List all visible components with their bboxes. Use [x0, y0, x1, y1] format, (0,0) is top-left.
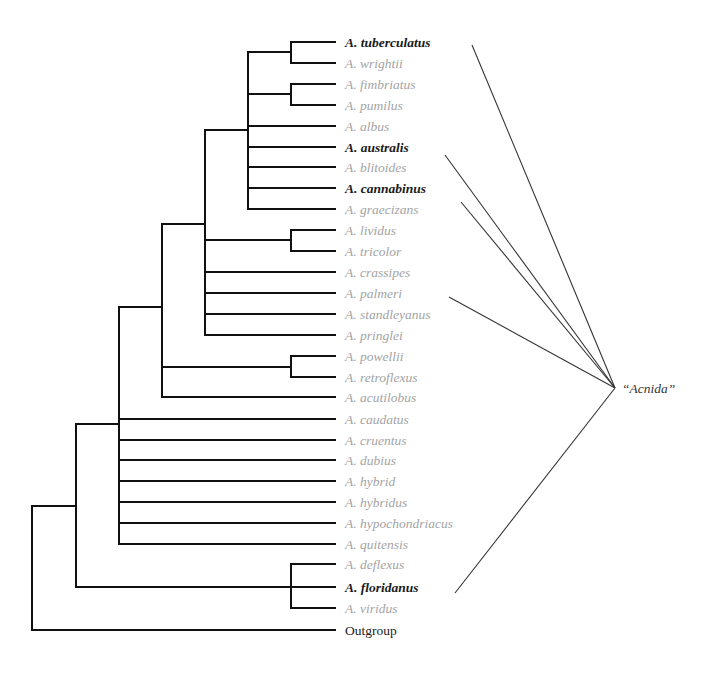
taxon-label: A. hybrid [344, 474, 395, 489]
taxon-label: A. wrightii [344, 56, 403, 71]
phylogenetic-tree: “Acnida” A. tuberculatus A. wrightii A. … [0, 0, 711, 673]
taxon-label: A. blitoides [344, 160, 407, 175]
taxon-label: A. caudatus [344, 412, 409, 427]
taxon-label: A. standleyanus [344, 307, 431, 322]
taxon-label: A. acutilobus [344, 390, 416, 405]
taxon-label: A. retroflexus [344, 370, 417, 385]
branch-lividus-tricolor [291, 230, 335, 251]
tree-branches [32, 42, 335, 630]
taxon-label: A. fimbriatus [344, 77, 416, 92]
branch-node-162 [162, 224, 335, 397]
pointer-tuberculatus [472, 45, 615, 388]
taxa-labels: A. tuberculatus A. wrightii A. fimbriatu… [344, 35, 453, 638]
branch-fimbriatus-pumilus [291, 84, 335, 105]
branch-ingroup [76, 424, 335, 587]
taxon-label: A. cannabinus [344, 181, 426, 196]
pointer-cannabinus [461, 202, 615, 388]
branch-tuberculatus-wrightii [291, 42, 335, 63]
taxon-label: A. powellii [344, 349, 404, 364]
taxon-label: A. cruentus [344, 433, 407, 448]
taxon-label: A. albus [344, 119, 389, 134]
pointer-palmeri [449, 297, 615, 388]
pointer-floridanus [455, 388, 615, 593]
taxon-label: A. hybridus [344, 495, 407, 510]
taxon-label: A. lividus [344, 223, 396, 238]
branch-node-119 [119, 307, 335, 544]
branch-powellii-retroflexus [291, 356, 335, 377]
taxon-label: A. dubius [344, 453, 396, 468]
acnida-pointers [445, 45, 615, 593]
taxon-label: A. palmeri [344, 286, 402, 301]
branch-node-205 [205, 130, 335, 335]
taxon-label: A. tricolor [344, 244, 402, 259]
outgroup-label: Outgroup [345, 623, 397, 638]
taxon-label: A. hypochondriacus [344, 516, 453, 531]
branch-node-248 [248, 52, 335, 209]
taxon-label: A. tuberculatus [344, 35, 431, 50]
taxon-label: A. deflexus [344, 557, 404, 572]
taxon-label: A. pumilus [344, 98, 403, 113]
taxon-label: A. viridus [344, 601, 398, 616]
pointer-australis [445, 155, 615, 388]
acnida-group-label: “Acnida” [622, 381, 675, 396]
taxon-label: A. quitensis [344, 537, 408, 552]
taxon-label: A. crassipes [344, 265, 410, 280]
taxon-label: A. pringlei [344, 328, 403, 343]
branch-root [32, 506, 335, 630]
taxon-label: A. australis [344, 140, 409, 155]
taxon-label: A. graecizans [344, 202, 419, 217]
taxon-label: A. floridanus [344, 580, 419, 595]
